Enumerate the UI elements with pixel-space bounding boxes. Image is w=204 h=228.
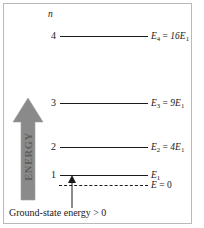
- level-equals-2: =: [163, 142, 168, 152]
- level-value-2: 4E: [170, 142, 181, 152]
- level-number-1: 1: [44, 169, 56, 180]
- level-line-3: [60, 103, 148, 104]
- level-expression-3: E3 = 9E1: [151, 98, 184, 108]
- level-symbol-1: E: [151, 170, 157, 180]
- level-symbol-2: E: [151, 142, 157, 152]
- level-number-2: 2: [44, 141, 56, 152]
- level-number-4: 4: [44, 30, 56, 41]
- level-expression-1: E1: [151, 170, 160, 180]
- zero-symbol: E: [151, 180, 157, 190]
- level-sub-3: 3: [157, 102, 160, 109]
- level-value-sub-2: 1: [181, 146, 184, 153]
- level-sub-4: 4: [157, 35, 160, 42]
- level-line-4: [60, 36, 148, 37]
- level-symbol-4: E: [151, 31, 157, 41]
- level-value-4: 16E: [170, 31, 185, 41]
- level-value-3: 9E: [170, 98, 181, 108]
- level-equals-3: =: [163, 98, 168, 108]
- quantum-number-header: n: [48, 9, 53, 19]
- caption-pointer-arrow-icon: [66, 174, 78, 208]
- level-expression-2: E2 = 4E1: [151, 142, 184, 152]
- level-equals-4: =: [163, 31, 168, 41]
- level-symbol-3: E: [151, 98, 157, 108]
- zero-value: 0: [167, 180, 172, 190]
- zero-equals: =: [159, 180, 164, 190]
- level-sub-2: 2: [157, 146, 160, 153]
- level-line-2: [60, 147, 148, 148]
- energy-level-diagram: ENERGY n 4 E4 = 16E1 3 E3 = 9E1 2 E2 = 4…: [0, 0, 204, 228]
- level-value-sub-4: 1: [186, 35, 189, 42]
- level-number-3: 3: [44, 97, 56, 108]
- energy-arrow-icon: [12, 96, 44, 202]
- level-expression-4: E4 = 16E1: [151, 31, 189, 41]
- caption-text: Ground-state energy > 0: [9, 207, 106, 218]
- zero-energy-label: E = 0: [151, 180, 172, 190]
- level-value-sub-3: 1: [181, 102, 184, 109]
